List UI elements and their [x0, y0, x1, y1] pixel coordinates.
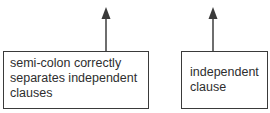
- annotation-line: clauses: [10, 86, 148, 101]
- cropped-top-text: [0, 0, 270, 2]
- annotation-box-independent-clause: independent clause: [181, 51, 268, 109]
- arrow-up-right: [206, 6, 220, 52]
- annotation-box-semicolon: semi-colon correctly separates independe…: [3, 51, 149, 109]
- annotation-line: independent: [190, 65, 267, 80]
- arrow-up-left: [99, 6, 113, 52]
- annotation-line: clause: [190, 80, 267, 95]
- annotation-line: separates independent: [10, 71, 148, 86]
- annotation-line: semi-colon correctly: [10, 56, 148, 71]
